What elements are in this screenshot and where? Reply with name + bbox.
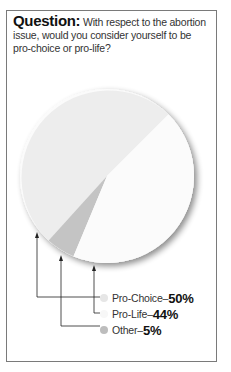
legend-item-other: Other–5% xyxy=(100,322,194,338)
legend-value: 50% xyxy=(168,291,193,306)
legend-value: 44% xyxy=(153,307,178,322)
legend-item-pro-life: Pro-Life–44% xyxy=(100,306,194,322)
legend-label: Pro-Life– xyxy=(112,308,153,320)
arrow-icon xyxy=(92,265,96,271)
legend-item-pro-choice: Pro-Choice–50% xyxy=(100,290,194,306)
arrow-icon xyxy=(59,255,63,261)
legend-value: 5% xyxy=(143,323,161,338)
legend: Pro-Choice–50% Pro-Life–44% Other–5% xyxy=(100,290,194,338)
legend-label: Other– xyxy=(112,324,143,336)
arrow-icon xyxy=(35,232,39,238)
legend-label: Pro-Choice– xyxy=(112,292,168,304)
swatch-icon xyxy=(100,326,108,334)
swatch-icon xyxy=(100,310,108,318)
swatch-icon xyxy=(100,294,108,302)
